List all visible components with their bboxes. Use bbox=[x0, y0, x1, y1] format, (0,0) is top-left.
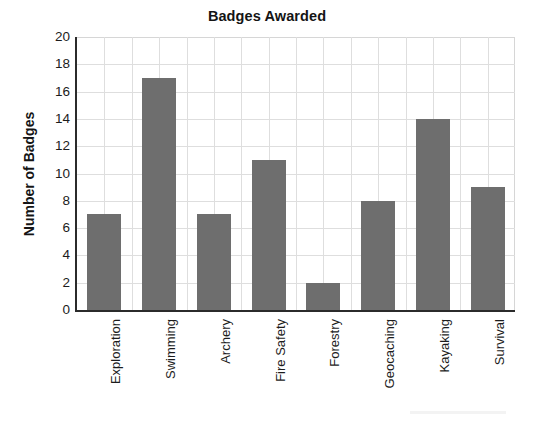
gridline-horizontal bbox=[77, 64, 515, 65]
chart-title: Badges Awarded bbox=[0, 8, 534, 24]
bar bbox=[197, 214, 231, 310]
gridline-vertical bbox=[132, 37, 133, 310]
plot-frame-top bbox=[77, 37, 515, 38]
y-tick-label: 12 bbox=[30, 139, 70, 153]
bar bbox=[142, 78, 176, 310]
x-tick-label: Geocaching bbox=[382, 319, 397, 388]
x-tick-label: Exploration bbox=[108, 319, 123, 384]
x-tick-label: Swimming bbox=[163, 319, 178, 379]
x-tick-label: Survival bbox=[492, 319, 507, 365]
page-artifact bbox=[410, 411, 506, 414]
plot-area bbox=[75, 37, 515, 312]
x-tick-label: Fire Safety bbox=[273, 319, 288, 382]
y-tick-label: 10 bbox=[30, 167, 70, 181]
x-axis-tick-labels: ExplorationSwimmingArcheryFire SafetyFor… bbox=[75, 313, 513, 413]
y-tick-label: 14 bbox=[30, 112, 70, 126]
y-tick-label: 0 bbox=[30, 303, 70, 317]
plot-frame-right bbox=[514, 37, 515, 310]
x-tick-label: Kayaking bbox=[437, 319, 452, 372]
x-tick-label: Forestry bbox=[327, 319, 342, 367]
bar bbox=[87, 214, 121, 310]
y-tick-label: 16 bbox=[30, 85, 70, 99]
bar bbox=[252, 160, 286, 310]
x-tick-label: Archery bbox=[218, 319, 233, 364]
bar bbox=[306, 283, 340, 310]
y-tick-label: 20 bbox=[30, 30, 70, 44]
bar-chart: Badges Awarded Number of Badges 20181614… bbox=[0, 0, 534, 423]
gridline-vertical bbox=[406, 37, 407, 310]
gridline-vertical bbox=[187, 37, 188, 310]
bar bbox=[361, 201, 395, 310]
y-tick-label: 4 bbox=[30, 249, 70, 263]
gridline-vertical bbox=[241, 37, 242, 310]
y-tick-label: 8 bbox=[30, 194, 70, 208]
y-tick-label: 18 bbox=[30, 58, 70, 72]
gridline-vertical bbox=[323, 37, 324, 310]
y-tick-label: 2 bbox=[30, 276, 70, 290]
bar bbox=[416, 119, 450, 310]
gridline-vertical bbox=[460, 37, 461, 310]
y-axis-tick-labels: 20181614121086420 bbox=[25, 37, 70, 310]
gridline-vertical bbox=[296, 37, 297, 310]
gridline-vertical bbox=[351, 37, 352, 310]
y-tick-label: 6 bbox=[30, 221, 70, 235]
bar bbox=[471, 187, 505, 310]
